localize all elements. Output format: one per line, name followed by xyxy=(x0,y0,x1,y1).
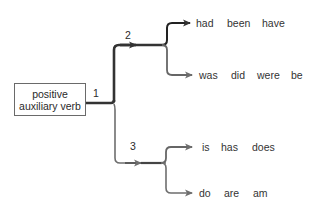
brace-3-bottom xyxy=(161,163,192,193)
word-do: do xyxy=(199,187,211,199)
branch-3-line xyxy=(114,104,166,163)
branch-label-2: 2 xyxy=(125,29,131,41)
brace-2-top xyxy=(162,23,190,45)
word-been: been xyxy=(227,17,250,29)
word-are: are xyxy=(224,187,239,199)
root-node-positive-auxiliary-verb: positive auxiliary verb xyxy=(14,83,86,116)
word-has: has xyxy=(221,141,238,153)
brace-2-bottom xyxy=(162,45,192,75)
word-did: did xyxy=(231,69,245,81)
diagram-canvas: positive auxiliary verb 1 2 3 had been h… xyxy=(0,0,314,206)
word-was: was xyxy=(199,69,218,81)
word-had: had xyxy=(196,17,214,29)
word-does: does xyxy=(252,141,275,153)
root-label-line2: auxiliary verb xyxy=(19,100,81,112)
branch-2-line xyxy=(114,45,166,102)
root-label-line1: positive xyxy=(32,88,68,100)
branch-label-1: 1 xyxy=(93,87,99,99)
word-have: have xyxy=(262,17,285,29)
word-is: is xyxy=(202,141,210,153)
word-am: am xyxy=(253,187,268,199)
branch-1-line xyxy=(86,100,114,103)
word-be: be xyxy=(291,69,303,81)
word-were: were xyxy=(257,69,280,81)
branch-label-3: 3 xyxy=(130,140,136,152)
brace-3-top xyxy=(161,147,192,163)
